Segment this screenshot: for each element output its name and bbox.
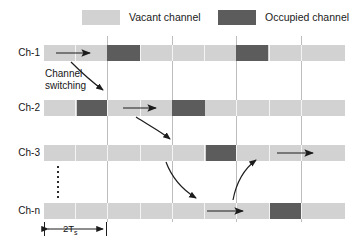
occupied-block-ch-2-b [172, 100, 205, 116]
segment-divider [75, 100, 76, 116]
vacant-track-ch-1 [44, 45, 345, 61]
segment-divider [204, 145, 205, 161]
segment-divider [75, 145, 76, 161]
segment-divider [204, 203, 205, 219]
segment-divider [301, 145, 302, 161]
channel-bar-ch-n [44, 203, 345, 219]
segment-divider [140, 45, 141, 61]
segment-divider [269, 100, 270, 116]
segment-divider [107, 203, 108, 219]
scale-label-text: 2T [63, 223, 74, 234]
segment-divider [236, 100, 237, 116]
channel-bar-ch-3 [44, 145, 345, 161]
segment-divider [172, 145, 173, 161]
segment-divider [75, 45, 76, 61]
segment-divider [107, 100, 108, 116]
channel-bar-ch-2 [44, 100, 345, 116]
gridline-4 [301, 36, 302, 222]
figure-canvas: Vacant channel Occupied channel Ch-1 Ch-… [0, 0, 353, 249]
legend-label-vacant: Vacant channel [129, 12, 201, 23]
occupied-block-ch-2-a [77, 100, 107, 116]
row-label-ch-2: Ch-2 [8, 103, 40, 113]
occupied-block-ch-1-b [236, 45, 268, 61]
occupied-block-ch-3-a [206, 145, 236, 161]
channel-bar-ch-1 [44, 45, 345, 61]
segment-divider [172, 203, 173, 219]
scale-label-subscript: s [74, 229, 78, 236]
occupied-block-ch-1-a [107, 45, 140, 61]
switch-arrow-ch3-to-chn [166, 162, 196, 198]
vacant-track-ch-3 [44, 145, 345, 161]
legend-label-occupied: Occupied channel [265, 12, 349, 23]
switch-arrow-ch2-to-ch3 [136, 117, 170, 139]
legend-swatch-vacant [82, 10, 120, 25]
gridline-3 [236, 36, 237, 222]
segment-divider [301, 45, 302, 61]
scale-label-2ts: 2Ts [63, 224, 78, 236]
segment-divider [269, 145, 270, 161]
segment-divider [301, 100, 302, 116]
gridline-1 [107, 36, 108, 222]
vertical-ellipsis-icon [57, 166, 59, 201]
legend-item-occupied: Occupied channel [218, 10, 349, 25]
legend-swatch-occupied [218, 10, 256, 25]
row-label-ch-3: Ch-3 [8, 148, 40, 158]
row-label-ch-1: Ch-1 [8, 48, 40, 58]
segment-divider [140, 100, 141, 116]
segment-divider [140, 203, 141, 219]
segment-divider [75, 203, 76, 219]
segment-divider [204, 45, 205, 61]
segment-divider [236, 145, 237, 161]
segment-divider [269, 45, 270, 61]
segment-divider [236, 203, 237, 219]
row-label-ch-n: Ch-n [8, 206, 40, 216]
segment-divider [172, 45, 173, 61]
annotation-channel-switching: Channel switching [45, 68, 86, 92]
segment-divider [140, 145, 141, 161]
occupied-block-ch-n-a [270, 203, 301, 219]
legend-item-vacant: Vacant channel [82, 10, 201, 25]
gridline-2 [172, 36, 173, 222]
segment-divider [301, 203, 302, 219]
segment-divider [107, 145, 108, 161]
